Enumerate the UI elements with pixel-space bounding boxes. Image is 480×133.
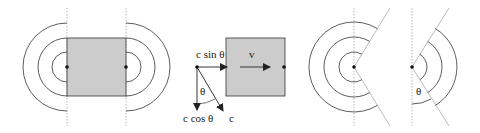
wavefront-p4-2 bbox=[428, 41, 442, 92]
source-dot-left bbox=[65, 65, 69, 69]
theta-arc-panel4 bbox=[412, 99, 431, 104]
wavefront-right-2 bbox=[126, 38, 155, 96]
panel-1 bbox=[23, 8, 170, 126]
wavefront-p3-2 bbox=[324, 37, 370, 97]
panel-3 bbox=[309, 8, 390, 126]
diagram-svg: c sin θ v θ c cos θ c θ bbox=[0, 0, 480, 133]
wavefront-right-1 bbox=[126, 52, 141, 82]
label-c: c bbox=[229, 112, 234, 124]
origin-dot bbox=[195, 65, 199, 69]
label-theta-panel4: θ bbox=[416, 85, 421, 97]
wavefront-left-3 bbox=[23, 23, 67, 111]
wedge-line-upper-p4 bbox=[412, 8, 449, 67]
label-c-sin-theta: c sin θ bbox=[196, 48, 225, 60]
wavefront-p3-3 bbox=[309, 22, 377, 112]
square-edge-dot bbox=[282, 65, 286, 69]
panel-4: θ bbox=[410, 8, 457, 126]
gray-square bbox=[67, 38, 126, 96]
wavefront-p4-1 bbox=[420, 54, 427, 80]
wavefront-left-2 bbox=[38, 38, 67, 96]
source-dot-right bbox=[124, 65, 128, 69]
label-theta-panel2: θ bbox=[200, 85, 205, 97]
label-v: v bbox=[249, 48, 255, 60]
wavefront-right-3 bbox=[126, 23, 170, 111]
diagram-canvas: c sin θ v θ c cos θ c θ bbox=[0, 0, 480, 133]
panel-2: c sin θ v θ c cos θ c bbox=[183, 38, 286, 124]
wavefront-left-1 bbox=[52, 52, 67, 82]
source-dot-panel4 bbox=[410, 65, 414, 69]
label-c-cos-theta: c cos θ bbox=[183, 112, 213, 124]
source-dot-panel3 bbox=[352, 65, 356, 69]
wavefront-p3-1 bbox=[339, 52, 362, 82]
theta-arc-panel2 bbox=[197, 99, 215, 104]
wavefront-p4-3 bbox=[435, 29, 457, 106]
